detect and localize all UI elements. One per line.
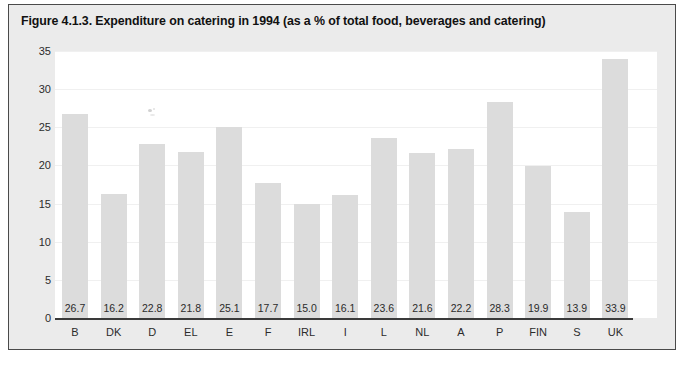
bar-value-label: 28.3 [487, 302, 513, 314]
bar-slot: 15.0 [294, 51, 320, 318]
bar-value-label: 21.8 [178, 302, 204, 314]
x-tick-label: F [255, 326, 281, 338]
bar [139, 144, 165, 318]
bar-value-label: 22.8 [139, 302, 165, 314]
y-tick-label: 15 [39, 198, 51, 210]
bar-slot: 13.9 [564, 51, 590, 318]
bar-value-label: 16.2 [101, 302, 127, 314]
x-tick-label: B [62, 326, 88, 338]
bar [62, 114, 88, 318]
x-tick-label: A [448, 326, 474, 338]
y-tick-label: 5 [45, 274, 51, 286]
bar [409, 153, 435, 318]
x-tick-label: L [371, 326, 397, 338]
bar-value-label: 26.7 [62, 302, 88, 314]
bar-slot: 19.9 [525, 51, 551, 318]
x-tick-label: I [332, 326, 358, 338]
bar-slot: 22.2 [448, 51, 474, 318]
bar [216, 127, 242, 318]
bar [178, 152, 204, 318]
x-axis: BDKDELEFIRLILNLAPFINSUK [55, 322, 657, 344]
bar-slot: 16.2 [101, 51, 127, 318]
x-tick-label: UK [602, 326, 628, 338]
bar [602, 59, 628, 318]
bar-slot: 33.9 [602, 51, 628, 318]
bar-slot: 25.1 [216, 51, 242, 318]
bar-slot: 21.6 [409, 51, 435, 318]
y-tick-label: 20 [39, 159, 51, 171]
x-tick-label: FIN [525, 326, 551, 338]
x-tick-label: S [564, 326, 590, 338]
bar-value-label: 19.9 [525, 302, 551, 314]
bar [525, 166, 551, 318]
bar-slot: 16.1 [332, 51, 358, 318]
bar [371, 138, 397, 318]
bar [332, 195, 358, 318]
y-axis: 05101520253035 [23, 51, 51, 318]
y-tick-label: 10 [39, 236, 51, 248]
bar-slot: 26.7 [62, 51, 88, 318]
x-tick-label: EL [178, 326, 204, 338]
x-tick-label: D [139, 326, 165, 338]
figure-frame: Figure 4.1.3. Expenditure on catering in… [8, 4, 676, 350]
bar-value-label: 23.6 [371, 302, 397, 314]
bar [294, 204, 320, 318]
x-tick-label: IRL [294, 326, 320, 338]
y-tick-label: 35 [39, 45, 51, 57]
figure-root: Figure 4.1.3. Expenditure on catering in… [0, 0, 692, 366]
bar [101, 194, 127, 318]
bar [487, 102, 513, 318]
bar-slot: 22.8 [139, 51, 165, 318]
bar [448, 149, 474, 318]
bar-value-label: 15.0 [294, 302, 320, 314]
bar-value-label: 17.7 [255, 302, 281, 314]
y-tick-label: 30 [39, 83, 51, 95]
y-tick-label: 0 [45, 312, 51, 324]
figure-title: Figure 4.1.3. Expenditure on catering in… [21, 14, 545, 28]
bar-value-label: 33.9 [602, 302, 628, 314]
x-tick-label: NL [409, 326, 435, 338]
x-axis-baseline [55, 318, 633, 320]
bar-slot: 17.7 [255, 51, 281, 318]
x-tick-label: DK [101, 326, 127, 338]
y-tick-label: 25 [39, 121, 51, 133]
bar-value-label: 25.1 [216, 302, 242, 314]
bar-slot: 28.3 [487, 51, 513, 318]
bar-value-label: 21.6 [409, 302, 435, 314]
bar-value-label: 22.2 [448, 302, 474, 314]
bar [255, 183, 281, 318]
bars-layer: 26.716.222.821.825.117.715.016.123.621.6… [55, 51, 657, 318]
bar-value-label: 16.1 [332, 302, 358, 314]
bar-slot: 21.8 [178, 51, 204, 318]
bar-value-label: 13.9 [564, 302, 590, 314]
bar-slot: 23.6 [371, 51, 397, 318]
x-tick-label: E [216, 326, 242, 338]
x-tick-label: P [487, 326, 513, 338]
